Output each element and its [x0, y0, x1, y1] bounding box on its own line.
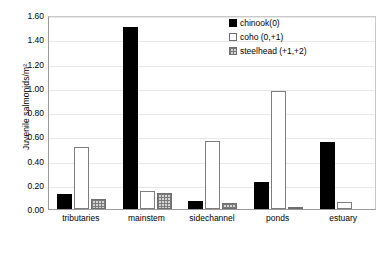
legend-item-chinook: chinook(0)	[229, 17, 307, 29]
x-tick-label-mainstem: mainstem	[128, 213, 165, 223]
y-tick-label: 1.40	[14, 36, 44, 45]
bar-ponds-steelhead	[288, 207, 303, 209]
y-tick-label: 1.60	[14, 12, 44, 21]
bar-sidechannel-chinook	[188, 201, 203, 209]
x-tick-label-tributaries: tributaries	[62, 213, 99, 223]
legend-swatch-steelhead-icon	[229, 47, 237, 55]
y-tick-label: 0.60	[14, 133, 44, 142]
bar-chart: Juvenile salmonids/m² 0.000.200.400.600.…	[0, 0, 382, 263]
y-tick-label: 1.20	[14, 60, 44, 69]
bar-ponds-coho	[271, 91, 286, 209]
bar-estuary-coho	[337, 202, 352, 209]
y-tick-label: 0.80	[14, 109, 44, 118]
legend-swatch-chinook-icon	[229, 19, 237, 27]
legend-label: chinook(0)	[240, 18, 280, 28]
bar-tributaries-coho	[74, 147, 89, 209]
bar-mainstem-steelhead	[157, 193, 172, 209]
legend-label: coho (0,+1)	[240, 32, 283, 42]
y-tick-label: 1.00	[14, 85, 44, 94]
y-tick-label: 0.00	[14, 206, 44, 215]
y-tick-label: 0.40	[14, 157, 44, 166]
bar-cluster-mainstem	[115, 17, 181, 209]
bar-mainstem-coho	[140, 191, 155, 209]
legend-item-coho: coho (0,+1)	[229, 31, 307, 43]
y-tick-label: 0.20	[14, 182, 44, 191]
x-tick-label-estuary: estuary	[329, 213, 357, 223]
legend-swatch-coho-icon	[229, 33, 237, 41]
bar-estuary-chinook	[320, 142, 335, 209]
bar-ponds-chinook	[254, 182, 269, 209]
x-axis-tick-labels: tributariesmainstemsidechannelpondsestua…	[48, 213, 376, 233]
x-tick-label-sidechannel: sidechannel	[189, 213, 234, 223]
bar-cluster-tributaries	[49, 17, 115, 209]
plot-area	[48, 16, 376, 210]
chart-legend: chinook(0)coho (0,+1)steelhead (+1,+2)	[229, 17, 307, 57]
bar-sidechannel-coho	[205, 141, 220, 209]
legend-item-steelhead: steelhead (+1,+2)	[229, 45, 307, 57]
bar-mainstem-chinook	[123, 27, 138, 209]
y-axis-tick-labels: 0.000.200.400.600.801.001.201.401.60	[12, 0, 44, 263]
plot-inner	[49, 17, 375, 209]
bar-cluster-estuary	[311, 17, 377, 209]
bar-sidechannel-steelhead	[222, 203, 237, 209]
bar-tributaries-steelhead	[91, 199, 106, 209]
bar-tributaries-chinook	[57, 194, 72, 209]
x-tick-label-ponds: ponds	[266, 213, 289, 223]
legend-label: steelhead (+1,+2)	[240, 46, 307, 56]
